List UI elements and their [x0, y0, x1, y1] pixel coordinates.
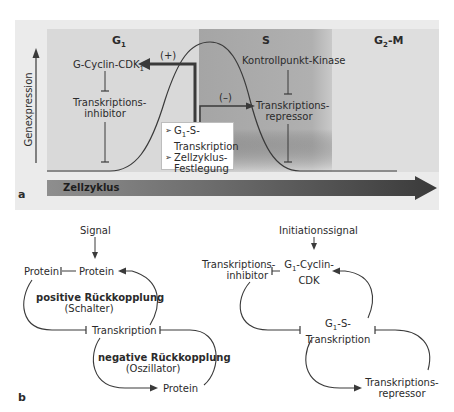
protein-left-label: Protein [24, 266, 59, 277]
cell-cycle-label: Zellzyklus [63, 182, 119, 193]
panel-b-label: b [18, 392, 26, 403]
transcription-label: Transkription [92, 325, 157, 336]
panel-a-label: a [18, 189, 25, 200]
transcription-repressor-label: Transkriptions-repressor [256, 100, 322, 122]
g1s-transcription-label: G1-S- Transkription [303, 318, 373, 345]
g2m-phase-label: G2-M [374, 35, 403, 51]
protein-bottom-label: Protein [163, 383, 198, 394]
y-axis-label: Genexpression [23, 70, 34, 150]
s-phase-label: S [262, 35, 270, 46]
transcription-inhibitor-label: Transkriptions-inhibitor [73, 97, 137, 119]
negative-feedback-label: negative Rückkopplung(Oszillator) [98, 352, 208, 374]
signal-arrowhead-icon [92, 252, 98, 259]
signal-arrowhead-icon [311, 243, 317, 250]
g-cyclin-cdk1-label: G-Cyclin-CDK1 [73, 59, 144, 75]
bullet-arrow-icon: ➢ [165, 152, 174, 174]
right-inhibitor-label: Transkriptions-inhibitor [202, 259, 268, 281]
minus-label: (–) [219, 92, 232, 103]
panel-a-graphics [0, 0, 454, 412]
g1-phase-label: G1 [112, 35, 126, 51]
g1-cyclin-cdk-label: G1-Cyclin- CDK [283, 259, 335, 286]
plus-label: (+) [160, 50, 176, 61]
bullet-arrow-icon: ➢ [165, 125, 174, 152]
protein-center-label: Protein [79, 266, 114, 277]
checkpoint-kinase-label: Kontrollpunkt-Kinase [242, 55, 346, 66]
right-repressor-label: Transkriptions-repressor [365, 377, 439, 399]
positive-feedback-label: positive Rückkopplung(Schalter) [36, 292, 142, 314]
initiation-signal-label: Initiationssignal [279, 225, 358, 236]
y-axis-arrowhead-icon [33, 48, 40, 58]
g1s-info-box: ➢ G1-S-Transkription ➢ Zellzyklus-Festle… [161, 122, 234, 170]
signal-label: Signal [80, 225, 111, 236]
